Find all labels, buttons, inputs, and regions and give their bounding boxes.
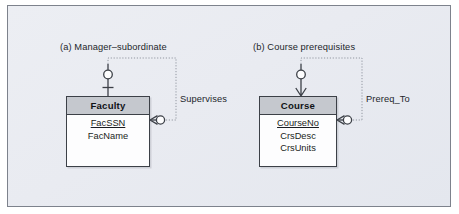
course-parent-cardinality-zero-or-many	[296, 64, 306, 96]
entity-course-attribute-crsdesc: CrsDesc	[280, 130, 316, 143]
entity-course-name: Course	[260, 97, 336, 115]
entity-faculty-attributes: FacSSN FacName	[67, 115, 149, 142]
course-child-cardinality-zero-or-many	[337, 116, 352, 125]
relationship-label-prereq-to: Prereq_To	[366, 94, 410, 104]
entity-course-attributes: CourseNo CrsDesc CrsUnits	[260, 115, 336, 155]
entity-course-attribute-crsunits: CrsUnits	[280, 142, 316, 155]
panel-b-caption: (b) Course prerequisites	[253, 42, 355, 52]
entity-faculty-attribute-facssn: FacSSN	[91, 117, 126, 130]
entity-course-attribute-courseno: CourseNo	[277, 117, 319, 130]
faculty-parent-cardinality-zero-or-one	[103, 64, 114, 96]
panel-a-caption: (a) Manager–subordinate	[60, 42, 167, 52]
entity-faculty-attribute-facname: FacName	[88, 130, 128, 143]
relationship-label-supervises: Supervises	[180, 94, 227, 104]
entity-faculty-name: Faculty	[67, 97, 149, 115]
er-diagram-figure: (a) Manager–subordinate Faculty FacSSN F…	[0, 0, 459, 214]
faculty-child-cardinality-zero-or-many	[150, 116, 165, 125]
entity-faculty[interactable]: Faculty FacSSN FacName	[66, 96, 150, 167]
entity-course[interactable]: Course CourseNo CrsDesc CrsUnits	[259, 96, 337, 167]
